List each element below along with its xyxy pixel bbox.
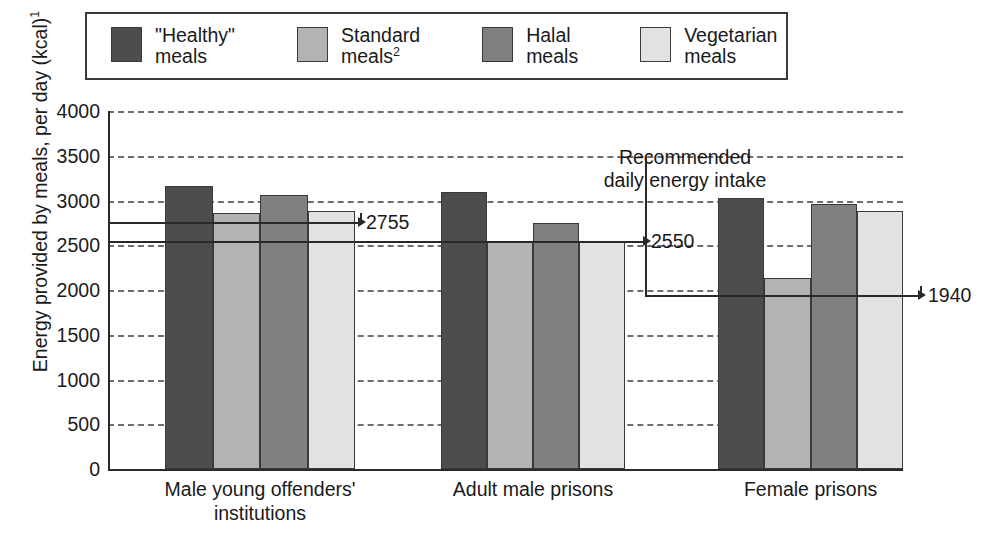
legend-swatch-standard-meals: [297, 27, 328, 62]
y-axis-tick-label: 3500: [57, 144, 100, 167]
x-axis-category-label: Male young offenders' institutions: [100, 477, 420, 525]
y-axis-tick-label: 1000: [57, 368, 100, 391]
y-axis-ticks: 40003500300025002000150010005000: [0, 111, 100, 469]
reference-label-2550: 2550: [651, 229, 694, 252]
legend-swatch-halal-meals: [482, 27, 513, 62]
y-axis-tick-label: 0: [89, 458, 100, 481]
y-axis-tick-label: 2000: [57, 279, 100, 302]
legend-item-halal-meals: Halal meals: [482, 14, 578, 78]
legend-label-vegetarian-meals: Vegetarian meals: [684, 25, 777, 67]
y-axis-tick-label: 1500: [57, 323, 100, 346]
bar-0-1: [213, 213, 261, 469]
reference-label-2755: 2755: [366, 211, 409, 234]
legend-label-standard-meals: Standard meals2: [341, 25, 420, 67]
bar-0-2: [260, 195, 308, 469]
y-axis-tick-label: 2500: [57, 234, 100, 257]
reference-line-2550: [108, 241, 645, 243]
x-axis-line: [108, 469, 903, 471]
bar-0-0: [165, 186, 213, 469]
legend-label-standard-meals-footnote: 2: [393, 45, 400, 59]
bar-2-2: [811, 204, 857, 469]
x-axis-category-label: Female prisons: [651, 477, 971, 501]
legend-item-standard-meals: Standard meals2: [297, 14, 420, 78]
gridline: [108, 111, 903, 113]
reference-connector: [645, 241, 647, 296]
bar-1-3: [579, 241, 625, 469]
y-axis-line: [108, 111, 110, 469]
reference-line-1940: [645, 295, 920, 297]
y-axis-tick-label: 500: [67, 413, 100, 436]
legend-swatch-healthy-meals: [111, 27, 142, 62]
bar-2-1: [764, 278, 810, 469]
legend-label-standard-meals-text: Standard meals: [341, 24, 420, 67]
chart-container: "Healthy" meals Standard meals2 Halal me…: [0, 0, 987, 557]
legend-swatch-vegetarian-meals: [640, 27, 671, 62]
gridline: [108, 201, 903, 203]
y-axis-tick-label: 3000: [57, 189, 100, 212]
bar-2-3: [857, 211, 903, 469]
bar-1-1: [487, 241, 533, 469]
annotation-leader-line: [645, 156, 647, 241]
chart-legend: "Healthy" meals Standard meals2 Halal me…: [85, 12, 788, 80]
bar-0-3: [308, 211, 356, 469]
reference-label-1940: 1940: [928, 284, 971, 307]
legend-label-healthy-meals: "Healthy" meals: [155, 25, 235, 67]
legend-label-halal-meals: Halal meals: [526, 25, 578, 67]
y-axis-tick-label: 4000: [57, 100, 100, 123]
reference-arrow-1940: [918, 290, 926, 300]
legend-item-healthy-meals: "Healthy" meals: [111, 14, 235, 78]
bar-2-0: [718, 198, 764, 469]
legend-item-vegetarian-meals: Vegetarian meals: [640, 14, 777, 78]
x-axis-category-label: Adult male prisons: [373, 477, 693, 501]
bar-1-0: [441, 192, 487, 469]
recommended-intake-annotation: Recommended daily energy intake: [560, 146, 810, 192]
reference-line-2755: [108, 222, 360, 224]
reference-arrow-2755: [358, 217, 366, 227]
bar-1-2: [533, 223, 579, 469]
y-axis-title-footnote: 1: [28, 11, 42, 18]
